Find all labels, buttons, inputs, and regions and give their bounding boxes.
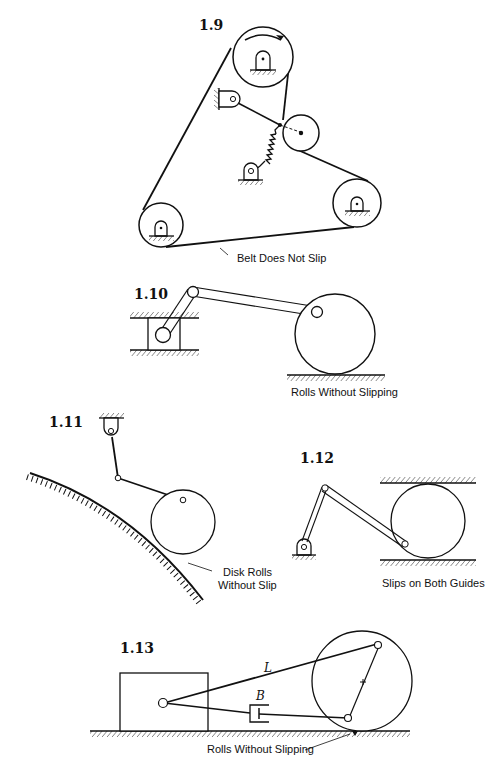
figure-label-1-11: 1.11 — [49, 414, 83, 430]
label-L: L — [263, 661, 272, 675]
figure-1-11: 1.11 Disk Rolls Without Slip — [27, 413, 277, 604]
connecting-rod — [192, 287, 318, 316]
rolling-wheel — [295, 294, 375, 374]
figure-label-1-9: 1.9 — [199, 17, 223, 33]
top-pulley — [233, 27, 293, 87]
caption-1-11-line1: Disk Rolls — [223, 566, 272, 578]
figure-1-13: 1.13 L B Rolls Without Slipping — [90, 631, 412, 755]
caption-leader — [220, 248, 228, 255]
caption-1-11-line2: Without Slip — [218, 579, 277, 591]
bottom-left-pulley — [139, 203, 183, 247]
caption-1-13: Rolls Without Slipping — [207, 743, 314, 755]
figure-label-1-10: 1.10 — [134, 286, 168, 302]
idler-arm — [214, 88, 282, 127]
caption-1-10: Rolls Without Slipping — [291, 386, 398, 398]
caption-1-12: Slips on Both Guides — [382, 577, 485, 589]
caption-1-9: Belt Does Not Slip — [237, 252, 326, 264]
idler-disk — [280, 115, 319, 151]
figure-1-10: 1.10 Rolls Without Slipping — [130, 286, 398, 398]
figure-label-1-12: 1.12 — [300, 450, 334, 466]
diagram-canvas: 1.9 — [0, 0, 503, 781]
figure-label-1-13: 1.13 — [120, 640, 154, 656]
rolling-wheel — [312, 631, 412, 731]
bottom-right-pulley — [333, 179, 381, 227]
spring — [255, 125, 280, 170]
label-B: B — [255, 689, 265, 703]
figure-1-9: 1.9 — [139, 17, 381, 264]
figure-1-12: 1.12 Slips on Both Guides — [292, 450, 485, 589]
